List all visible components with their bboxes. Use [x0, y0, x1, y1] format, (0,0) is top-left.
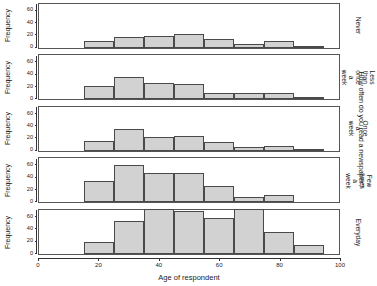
y-tick-label: 40 — [27, 226, 35, 232]
histogram-bar — [84, 141, 114, 151]
y-tick-label: 20 — [27, 187, 35, 193]
y-tick-label: 20 — [27, 84, 35, 90]
y-tick-mark — [35, 113, 38, 114]
histogram-bar — [174, 84, 204, 99]
y-tick-mark — [35, 34, 38, 35]
y-tick-mark — [35, 86, 38, 87]
y-tick-mark — [35, 253, 38, 254]
x-tick-label: 100 — [335, 262, 345, 268]
y-tick-mark — [35, 125, 38, 126]
x-axis: 020406080100 — [38, 258, 340, 270]
histogram-bar — [114, 77, 144, 99]
y-tick-label: 0 — [30, 147, 35, 153]
histogram-bar — [114, 221, 144, 254]
y-tick-mark — [35, 189, 38, 190]
panel-less-than-once-a-week: Frequency0204060Less than once a week — [0, 52, 352, 104]
y-axis: 0204060 — [13, 107, 37, 150]
y-axis-label: Frequency — [2, 155, 13, 207]
histogram-bar — [114, 129, 144, 151]
histogram-bar — [234, 197, 264, 202]
bar-group — [39, 55, 339, 99]
plot-area — [38, 106, 340, 152]
y-tick-label: 60 — [27, 59, 35, 65]
y-axis: 0204060 — [13, 210, 37, 253]
x-tick-mark — [219, 258, 220, 261]
bar-group — [39, 158, 339, 202]
histogram-bar — [84, 242, 114, 253]
y-tick-mark — [35, 74, 38, 75]
histogram-bar — [264, 41, 294, 47]
histogram-bar — [294, 149, 324, 151]
histogram-bar — [84, 181, 114, 203]
y-axis-label: Frequency — [2, 103, 13, 155]
panel-everyday: Frequency0204060Everyday — [0, 206, 352, 258]
histogram-bar — [174, 136, 204, 151]
y-tick-label: 0 — [30, 96, 35, 102]
panel-stack: Frequency0204060NeverFrequency0204060Les… — [0, 0, 352, 258]
y-axis-label: Frequency — [2, 52, 13, 104]
y-tick-label: 60 — [27, 111, 35, 117]
y-tick-mark — [35, 177, 38, 178]
x-tick-label: 20 — [95, 262, 102, 268]
x-tick-label: 80 — [276, 262, 283, 268]
x-tick-mark — [159, 258, 160, 261]
histogram-bar — [204, 39, 234, 47]
histogram-bar — [84, 86, 114, 99]
x-tick-label: 0 — [36, 262, 39, 268]
y-axis-label-text: Frequency — [4, 9, 11, 42]
histogram-bar — [174, 34, 204, 47]
y-axis-label: Frequency — [2, 0, 13, 52]
y-tick-mark — [35, 164, 38, 165]
y-tick-label: 40 — [27, 123, 35, 129]
histogram-bar — [264, 93, 294, 99]
figure-title-text: How often do you read a newspaper? — [357, 71, 366, 187]
x-tick-label: 60 — [216, 262, 223, 268]
histogram-bar — [234, 44, 264, 47]
histogram-bar — [234, 147, 264, 151]
y-tick-label: 40 — [27, 71, 35, 77]
x-axis-region: 020406080100 Age of respondent — [0, 258, 352, 286]
histogram-bar — [84, 41, 114, 48]
histogram-bar — [204, 142, 234, 150]
x-tick-mark — [98, 258, 99, 261]
x-axis-label: Age of respondent — [38, 273, 340, 282]
histogram-bar — [144, 36, 174, 47]
y-tick-label: 60 — [27, 214, 35, 220]
y-tick-mark — [35, 98, 38, 99]
histogram-bar — [204, 93, 234, 99]
x-tick-mark — [280, 258, 281, 261]
y-tick-label: 60 — [27, 7, 35, 13]
histogram-bar — [264, 195, 294, 203]
y-tick-label: 20 — [27, 32, 35, 38]
y-tick-mark — [35, 150, 38, 151]
x-tick-mark — [38, 258, 39, 261]
plot-area — [38, 3, 340, 49]
y-tick-mark — [35, 137, 38, 138]
y-tick-mark — [35, 10, 38, 11]
y-axis: 0204060 — [13, 159, 37, 202]
plot-area — [38, 209, 340, 255]
y-tick-label: 20 — [27, 238, 35, 244]
y-tick-mark — [35, 241, 38, 242]
y-axis-label-text: Frequency — [4, 164, 11, 197]
bar-group — [39, 107, 339, 151]
y-tick-mark — [35, 61, 38, 62]
plot-area — [38, 54, 340, 100]
panel-few-times-a-week: Frequency0204060Few times a week — [0, 155, 352, 207]
histogram-bar — [204, 186, 234, 202]
bar-group — [39, 210, 339, 254]
histogram-bar — [234, 93, 264, 99]
histogram-bar — [294, 245, 324, 254]
histogram-bar — [174, 173, 204, 202]
histogram-bar — [264, 146, 294, 150]
y-tick-mark — [35, 47, 38, 48]
outer-strip-title: How often do you read a newspaper? — [353, 0, 369, 258]
y-axis-label: Frequency — [2, 206, 13, 258]
x-tick-label: 40 — [155, 262, 162, 268]
y-axis-label-text: Frequency — [4, 216, 11, 249]
histogram-bar — [174, 211, 204, 253]
y-axis: 0204060 — [13, 4, 37, 47]
histogram-bar — [114, 165, 144, 202]
x-axis-line — [38, 258, 340, 259]
